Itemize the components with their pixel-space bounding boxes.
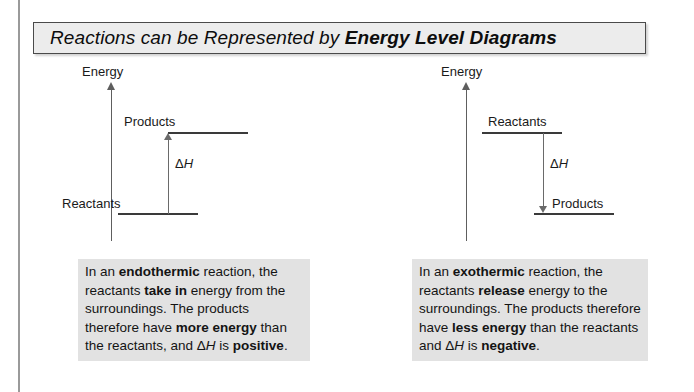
delta-h-arrowhead-down: [539, 206, 547, 213]
caption-emphasis: take in: [144, 283, 187, 298]
delta-h-label: ΔH: [175, 156, 193, 171]
caption-emphasis: positive: [233, 338, 284, 353]
enthalpy-variable: H: [559, 156, 568, 171]
caption-enthalpy-variable: H: [206, 338, 216, 353]
delta-h-label: ΔH: [550, 156, 568, 171]
caption-emphasis: release: [478, 283, 525, 298]
energy-axis-line: [111, 89, 112, 241]
products-level-line: [534, 213, 614, 215]
delta-h-arrow-shaft: [168, 138, 169, 214]
reactants-level-label: Reactants: [488, 114, 547, 129]
endothermic-caption: In an endothermic reaction, the reactant…: [78, 259, 310, 361]
caption-emphasis: exothermic: [453, 264, 525, 279]
delta-h-arrow-shaft: [543, 133, 544, 207]
enthalpy-variable: H: [184, 156, 193, 171]
title-bold-text: Energy Level Diagrams: [345, 27, 557, 48]
caption-text: In an: [85, 264, 119, 279]
reactants-level-label: Reactants: [62, 196, 121, 211]
reactants-level-line: [118, 213, 198, 215]
title-plain-text: Reactions can be Represented by: [50, 27, 345, 48]
caption-emphasis: less energy: [452, 320, 526, 335]
exothermic-energy-diagram: Energy Reactants Products ΔH: [400, 60, 694, 255]
products-level-label: Products: [124, 114, 175, 129]
page-margin-rule: [18, 0, 20, 392]
energy-axis-label: Energy: [82, 64, 123, 79]
delta-symbol: Δ: [175, 156, 184, 171]
caption-emphasis: endothermic: [119, 264, 200, 279]
energy-axis-line: [466, 89, 467, 241]
title-banner: Reactions can be Represented by Energy L…: [33, 22, 646, 54]
caption-text: .: [536, 338, 540, 353]
caption-text: In an: [419, 264, 453, 279]
caption-text: is: [464, 338, 481, 353]
caption-text: is: [216, 338, 233, 353]
endothermic-energy-diagram: Energy Products Reactants ΔH: [60, 60, 380, 255]
reactants-level-line: [482, 132, 562, 134]
page-title: Reactions can be Represented by Energy L…: [50, 27, 557, 49]
exothermic-caption: In an exothermic reaction, the reactants…: [412, 259, 648, 361]
delta-symbol: Δ: [550, 156, 559, 171]
caption-text: .: [284, 338, 288, 353]
products-level-label: Products: [552, 196, 603, 211]
caption-emphasis: more energy: [176, 320, 257, 335]
caption-enthalpy-variable: H: [454, 338, 464, 353]
energy-axis-label: Energy: [441, 64, 482, 79]
products-level-line: [168, 132, 248, 134]
caption-emphasis: negative: [481, 338, 536, 353]
